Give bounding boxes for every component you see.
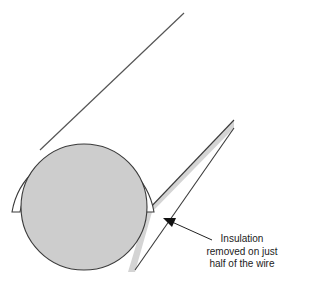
callout-label-line-1: Insulation <box>198 233 286 246</box>
callout-label-line-2: removed on just <box>198 246 286 259</box>
wire-core-circle <box>21 144 147 270</box>
wire-top-edge <box>40 13 184 150</box>
callout-label-line-3: half of the wire <box>198 258 286 271</box>
exposed-strip-outer-edge <box>147 120 234 211</box>
callout-label: Insulation removed on just half of the w… <box>198 233 286 271</box>
